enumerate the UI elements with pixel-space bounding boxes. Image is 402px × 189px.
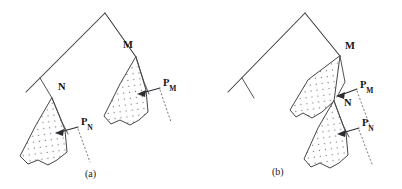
panel-a-branch-to-node-n xyxy=(40,78,52,98)
panel-a-arrow-label-pn: PN xyxy=(81,117,93,130)
panel-a-arrow-label-pm: PM xyxy=(163,78,177,91)
panel-a-geometry xyxy=(20,13,171,165)
panel-b-ridge-right-flank xyxy=(305,13,340,56)
panel-a-caption: (a) xyxy=(85,169,96,179)
panel-b-arrow-label-pm: PM xyxy=(360,80,374,93)
panel-a-leader-dotted-pn xyxy=(78,129,90,162)
panel-b-ridge-left-flank xyxy=(228,13,305,92)
panel-b-node-label-m: M xyxy=(345,41,355,52)
figure-root: M N PM PN (a) M N PM PN (b) xyxy=(0,0,402,189)
panel-a-leader-dotted-pm xyxy=(160,90,171,122)
panel-a-pn-subscript: N xyxy=(87,123,92,132)
panel-b-leader-dotted-pn xyxy=(359,130,372,164)
panel-b-pm-subscript: M xyxy=(366,86,373,95)
panel-a-node-label-m: M xyxy=(123,40,133,51)
panel-b-pn-subscript: N xyxy=(368,124,373,133)
panel-b-caption: (b) xyxy=(272,167,284,177)
panel-b-arrow-label-pn: PN xyxy=(362,118,374,131)
panel-b-branch-tick xyxy=(242,78,254,98)
panel-b-node-label-n: N xyxy=(344,98,352,109)
panel-a-wedge-m xyxy=(104,57,148,125)
panel-b-geometry xyxy=(228,13,372,168)
figure-canvas xyxy=(0,0,402,189)
panel-a-pm-subscript: M xyxy=(169,84,176,93)
panel-a-node-label-n: N xyxy=(58,82,66,93)
